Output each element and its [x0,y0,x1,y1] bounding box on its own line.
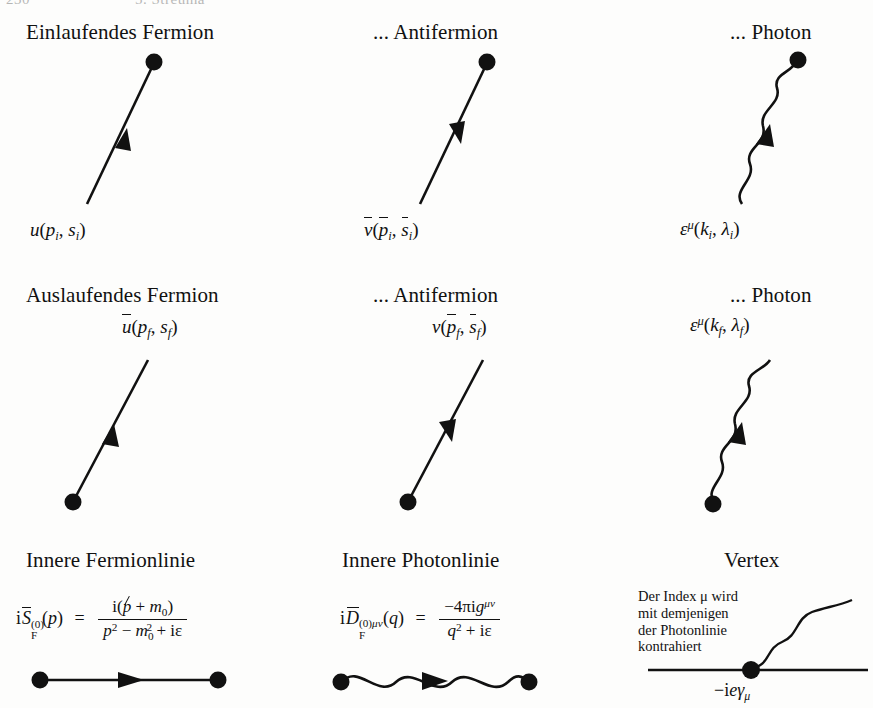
formula-vertex-factor: −ieγμ [714,680,750,704]
heading-incoming-photon: ... Photon [730,20,812,45]
cell-outgoing-photon: ... Photon [730,283,812,308]
formula-outgoing-antifermion: v(pf, sf) [432,316,486,341]
diagram-internal-photon-line [330,665,560,699]
cell-internal-photon-line: Innere Photonlinie [342,548,500,573]
diagram-incoming-antifermion [408,52,518,212]
diagram-outgoing-photon [700,352,820,512]
heading-internal-photon-line: Innere Photonlinie [342,548,500,573]
diagram-vertex [630,586,873,696]
cell-incoming-fermion: Einlaufendes Fermion [26,20,214,45]
diagram-outgoing-antifermion [395,352,515,512]
diagram-incoming-fermion [75,52,185,212]
diagram-incoming-photon [730,52,840,212]
heading-incoming-fermion: Einlaufendes Fermion [26,20,214,45]
cell-vertex: Vertex [724,548,779,573]
formula-internal-fermion-propagator: iS F(0)(p) = i(p + m0) p2 − m02 + iε [16,598,189,643]
formula-outgoing-photon: εμ(kf, λf) [690,314,750,339]
heading-outgoing-photon: ... Photon [730,283,812,308]
textbook-page: 230 5. Streuma Einlaufendes Fermion u(pi… [0,0,873,708]
cell-internal-fermion-line: Innere Fermionlinie [26,548,195,573]
formula-incoming-antifermion: v(pi, si) [364,219,418,244]
heading-outgoing-fermion: Auslaufendes Fermion [26,283,219,308]
page-number: 230 [6,0,30,8]
running-head: 230 5. Streuma [0,0,873,9]
heading-internal-fermion-line: Innere Fermionlinie [26,548,195,573]
cell-incoming-photon: ... Photon [730,20,812,45]
cell-incoming-antifermion: ... Antifermion [373,20,498,45]
cell-outgoing-antifermion: ... Antifermion [373,283,498,308]
chapter-title: 5. Streuma [135,0,205,8]
formula-outgoing-fermion: u(pf, sf) [122,316,178,341]
formula-incoming-photon: εμ(ki, λi) [680,218,740,243]
formula-internal-photon-propagator: iD F(0)μν(q) = −4πigμν q2 + iε [340,598,502,642]
diagram-internal-fermion-line [30,665,250,695]
heading-incoming-antifermion: ... Antifermion [373,20,498,45]
heading-vertex: Vertex [724,548,779,573]
diagram-outgoing-fermion [60,352,180,512]
cell-outgoing-fermion: Auslaufendes Fermion [26,283,219,308]
formula-incoming-fermion: u(pi, si) [30,219,86,244]
heading-outgoing-antifermion: ... Antifermion [373,283,498,308]
